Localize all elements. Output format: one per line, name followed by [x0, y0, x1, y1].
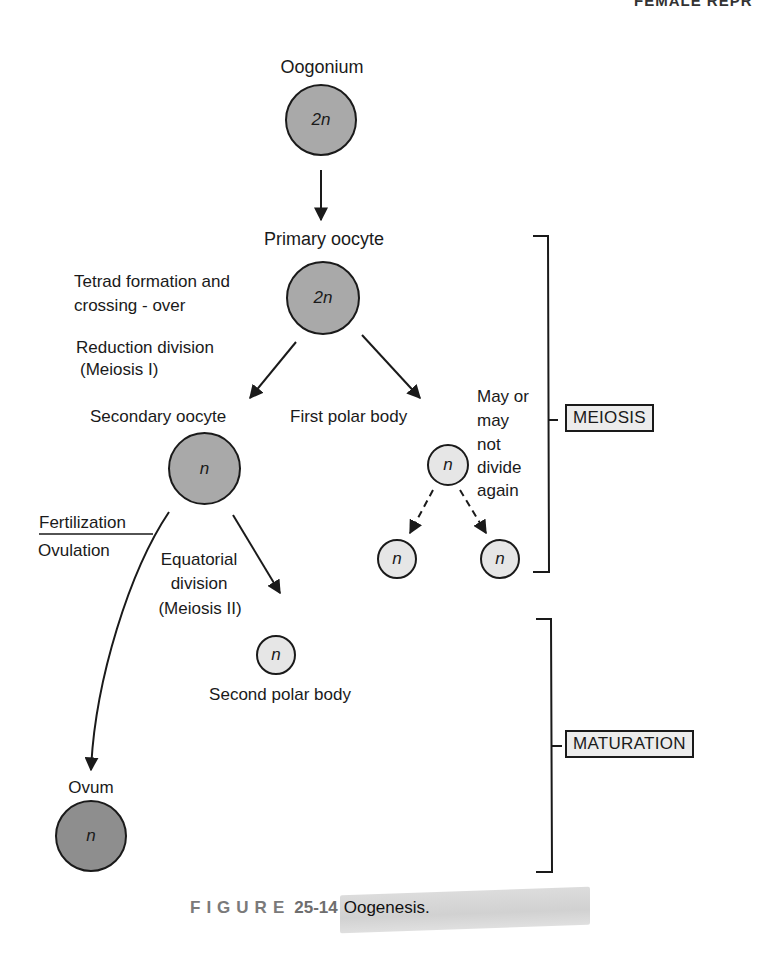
meiosis-phase-tag: MEIOSIS [565, 404, 654, 432]
primary-oocyte-ploidy: 2n [314, 288, 333, 308]
figure-caption: FIGURE25-14Oogenesis. [190, 898, 430, 918]
may-divide-line4: divide [477, 457, 521, 479]
equatorial-line2: division [171, 573, 228, 595]
polar-daughter-left-ploidy: n [392, 549, 401, 569]
second-polar-body-ploidy: n [271, 645, 280, 665]
arrow-polar-left-dashed [410, 490, 433, 533]
first-polar-body-ploidy: n [443, 455, 452, 475]
secondary-oocyte-ploidy: n [200, 459, 209, 479]
secondary-oocyte-label: Secondary oocyte [90, 406, 226, 428]
reduction-annotation-line1: Reduction division [76, 337, 214, 359]
second-polar-body-cell: n [256, 635, 296, 675]
ovum-cell: n [55, 800, 127, 872]
may-divide-line3: not [477, 434, 501, 456]
fertilization-label: Fertilization [39, 512, 126, 534]
figure-title: Oogenesis. [344, 898, 430, 917]
arrow-secondary-to-second-polar [233, 515, 280, 593]
first-polar-body-cell: n [427, 444, 469, 486]
polar-daughter-right-cell: n [480, 539, 520, 579]
second-polar-body-label: Second polar body [209, 684, 351, 706]
figure-number: 25-14 [294, 898, 337, 917]
tetrad-annotation-line1: Tetrad formation and [74, 271, 230, 293]
ovum-label: Ovum [68, 777, 113, 799]
arrow-primary-to-secondary [250, 342, 296, 398]
may-divide-line2: may [477, 410, 509, 432]
oogonium-ploidy: 2n [312, 110, 331, 130]
tetrad-annotation-line2: crossing - over [74, 295, 185, 317]
first-polar-body-label: First polar body [290, 406, 407, 428]
secondary-oocyte-cell: n [168, 432, 241, 505]
equatorial-line1: Equatorial [161, 549, 238, 571]
oogonium-cell: 2n [285, 84, 357, 156]
reduction-annotation-line2: (Meiosis I) [80, 359, 158, 381]
arrow-primary-to-first-polar [362, 335, 420, 398]
oogonium-label: Oogonium [280, 56, 363, 78]
polar-daughter-left-cell: n [377, 539, 417, 579]
ovum-ploidy: n [86, 826, 95, 846]
may-divide-line5: again [477, 480, 519, 502]
maturation-bracket [536, 619, 552, 872]
primary-oocyte-label: Primary oocyte [264, 228, 384, 250]
may-divide-line1: May or [477, 386, 529, 408]
equatorial-line3: (Meiosis II) [158, 598, 241, 620]
maturation-phase-tag: MATURATION [565, 730, 694, 758]
polar-daughter-right-ploidy: n [495, 549, 504, 569]
primary-oocyte-cell: 2n [286, 261, 360, 335]
figure-word: FIGURE [190, 898, 290, 917]
meiosis-bracket [533, 236, 549, 572]
ovulation-label: Ovulation [38, 540, 110, 562]
